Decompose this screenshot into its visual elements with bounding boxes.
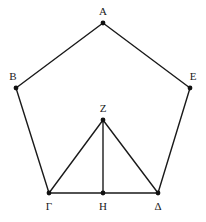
vertex-z-dot xyxy=(101,118,106,123)
vertex-gamma-dot xyxy=(47,191,52,196)
vertex-b-dot xyxy=(14,86,19,91)
edge-delta-e xyxy=(158,88,190,193)
edge-b-gamma xyxy=(16,88,49,193)
vertex-e-dot xyxy=(188,86,193,91)
vertex-h-dot xyxy=(101,191,106,196)
vertex-a-label: A xyxy=(99,6,107,17)
vertex-b-label: B xyxy=(9,71,16,82)
edge-z-gamma xyxy=(49,120,103,193)
edge-z-delta xyxy=(103,120,158,193)
vertex-gamma-label: Γ xyxy=(46,201,52,212)
vertex-delta-label: Δ xyxy=(154,201,161,212)
edge-e-a xyxy=(103,23,190,88)
vertex-delta-dot xyxy=(156,191,161,196)
vertex-h-label: H xyxy=(99,201,107,212)
vertex-e-label: E xyxy=(190,71,197,82)
vertex-a-dot xyxy=(101,21,106,26)
edge-a-b xyxy=(16,23,103,88)
vertex-z-label: Z xyxy=(100,103,107,114)
geometry-figure: ABΓΔEZH xyxy=(0,0,206,222)
